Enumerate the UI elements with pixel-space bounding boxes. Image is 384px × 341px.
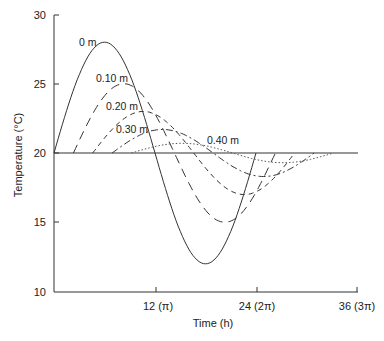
- x-axis-title: Time (h): [193, 317, 234, 329]
- label-0.30m: 0.30 m: [116, 123, 148, 135]
- y-tick-30: 30: [34, 9, 46, 21]
- label-0.20m: 0.20 m: [106, 100, 138, 112]
- y-tick-15: 15: [34, 216, 46, 228]
- label-0.40m: 0.40 m: [207, 134, 239, 146]
- y-tick-20: 20: [34, 147, 46, 159]
- y-tick-25: 25: [34, 78, 46, 90]
- label-0.10m: 0.10 m: [96, 72, 128, 84]
- x-tick-24: 24 (2π): [239, 300, 275, 312]
- y-tick-10: 10: [34, 286, 46, 298]
- y-ticks: 30 25 20 15 10: [34, 9, 59, 298]
- label-0m: 0 m: [79, 36, 97, 48]
- x-tick-36: 36 (3π): [339, 300, 375, 312]
- temperature-chart: 30 25 20 15 10 12 (π) 24 (2π) 36 (3π) Ti…: [0, 0, 384, 341]
- x-tick-12: 12 (π): [143, 300, 173, 312]
- y-axis-title: Temperature (°C): [12, 113, 24, 197]
- x-ticks: 12 (π) 24 (2π) 36 (3π): [143, 287, 375, 312]
